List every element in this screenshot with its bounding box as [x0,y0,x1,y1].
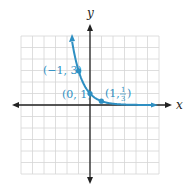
curve-up-arrow-icon [69,34,75,42]
point-label-0-1: (0, 1) [62,88,92,101]
x-axis-label: x [176,98,183,112]
x-axis-left-arrow-icon [12,102,19,108]
svg-text:): ) [127,87,131,100]
point-1-third [99,99,104,104]
point-label-1-third: (1, 1 3 ) [105,86,131,103]
point-label-neg1-3: (−1, 3) [43,64,82,77]
x-axis-right-arrow-icon [165,102,172,108]
graph: x y (−1, 3) (0, 1) (1, 1 3 ) [0,0,192,194]
y-axis-label: y [86,6,94,20]
svg-text:(1,: (1, [105,87,120,100]
svg-text:3: 3 [121,95,125,103]
svg-text:1: 1 [121,86,125,94]
y-axis-up-arrow-icon [87,24,93,31]
curve-right-arrow-icon [151,103,158,108]
y-axis [87,24,93,184]
y-axis-down-arrow-icon [87,177,93,184]
